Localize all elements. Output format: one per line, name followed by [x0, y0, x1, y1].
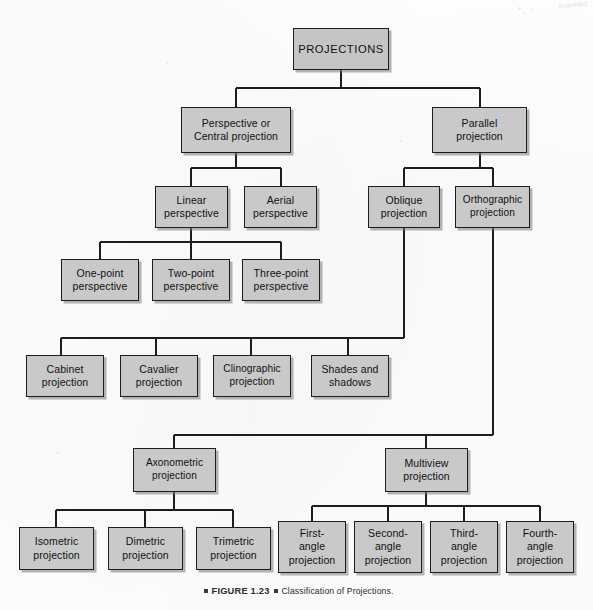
node-perspective-or-central-projection[interactable]: Perspective or Central projection — [181, 107, 291, 153]
node-oblique-projection[interactable]: Oblique projection — [368, 186, 440, 228]
figure-caption: FIGURE 1.23Classification of Projections… — [0, 586, 593, 596]
figure-caption-text: Classification of Projections. — [282, 586, 394, 596]
node-orthographic-projection[interactable]: Orthographic projection — [455, 186, 530, 228]
node-axonometric-projection[interactable]: Axonometric projection — [133, 448, 216, 492]
node-second-angle-projection[interactable]: Second- angle projection — [354, 521, 422, 573]
caption-square-left-icon — [204, 589, 208, 593]
node-cavalier-projection[interactable]: Cavalier projection — [120, 355, 198, 397]
node-cabinet-projection[interactable]: Cabinet projection — [26, 355, 104, 397]
node-three-point-perspective[interactable]: Three-point perspective — [242, 259, 320, 301]
node-one-point-perspective[interactable]: One-point perspective — [61, 259, 139, 301]
tree-connectors — [0, 0, 593, 610]
figure-page: scanned — [0, 0, 593, 610]
node-trimetric-projection[interactable]: Trimetric projection — [196, 527, 271, 570]
node-fourth-angle-projection[interactable]: Fourth- angle projection — [506, 521, 574, 573]
node-two-point-perspective[interactable]: Two-point perspective — [152, 259, 230, 301]
node-first-angle-projection[interactable]: First- angle projection — [278, 521, 346, 573]
figure-number: FIGURE 1.23 — [212, 586, 270, 596]
node-clinographic-projection[interactable]: Clinographic projection — [213, 355, 291, 397]
node-parallel-projection[interactable]: Parallel projection — [432, 107, 527, 153]
scan-watermark: scanned — [558, 0, 588, 9]
node-projections[interactable]: PROJECTIONS — [293, 28, 389, 70]
node-linear-perspective[interactable]: Linear perspective — [155, 186, 228, 228]
node-shades-and-shadows[interactable]: Shades and shadows — [311, 355, 389, 397]
node-isometric-projection[interactable]: Isometric projection — [19, 527, 94, 570]
caption-square-right-icon — [274, 589, 278, 593]
node-multiview-projection[interactable]: Multiview projection — [385, 448, 468, 492]
node-dimetric-projection[interactable]: Dimetric projection — [108, 527, 183, 570]
node-third-angle-projection[interactable]: Third- angle projection — [430, 521, 498, 573]
node-aerial-perspective[interactable]: Aerial perspective — [244, 186, 317, 228]
